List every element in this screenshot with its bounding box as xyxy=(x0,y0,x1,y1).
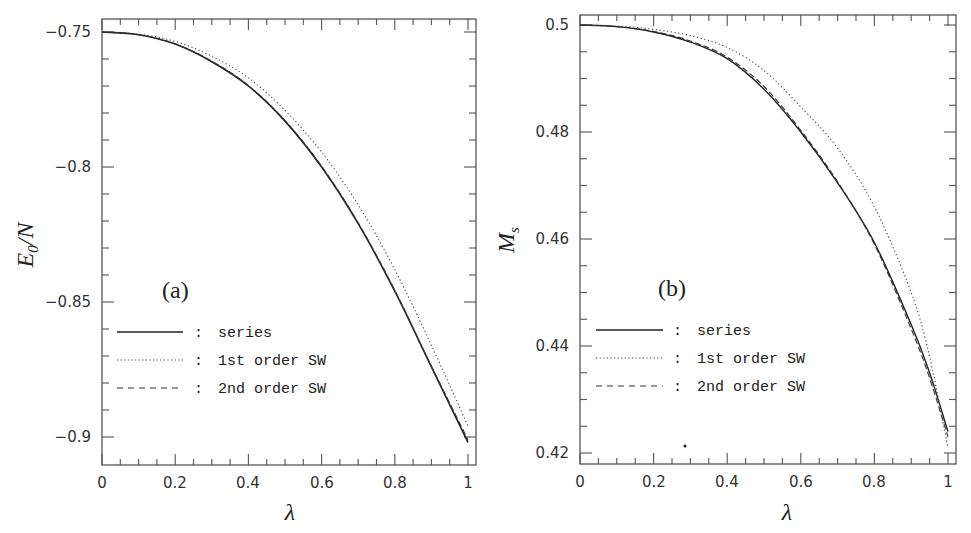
xtick-label: 1 xyxy=(943,473,953,491)
xtick-label: 0.4 xyxy=(715,473,739,491)
legend-sep: : xyxy=(673,351,682,368)
xtick-label: 0.8 xyxy=(383,474,407,492)
legend-label: 2nd order SW xyxy=(218,381,326,398)
y-axis-title: Ms xyxy=(493,227,522,254)
xtick-label: 0.6 xyxy=(310,474,334,492)
legend-label: 1st order SW xyxy=(697,351,805,368)
legend-b: : series : 1st order SW : 2nd order SW xyxy=(596,323,805,396)
figure: −0.75 −0.8 −0.85 −0.9 0 0.2 0.4 0.6 0.8 … xyxy=(0,0,971,533)
plot-frame-a xyxy=(102,19,476,465)
xtick-label: 0 xyxy=(97,474,107,492)
legend-sep: : xyxy=(194,353,203,370)
legend-sep: : xyxy=(673,379,682,396)
legend-sep: : xyxy=(194,325,203,342)
legend-sep: : xyxy=(194,381,203,398)
legend-label: 1st order SW xyxy=(218,353,326,370)
xtick-label: 0 xyxy=(575,473,585,491)
ytick-label: 0.46 xyxy=(536,230,569,248)
ytick-label: −0.9 xyxy=(55,428,91,446)
xtick-label: 0.8 xyxy=(862,473,886,491)
curve-2nd-order-sw xyxy=(580,25,948,437)
ytick-label: 0.44 xyxy=(536,337,569,355)
panel-label-a: (a) xyxy=(162,277,189,303)
artifact-dot xyxy=(684,445,687,448)
legend-sep: : xyxy=(673,323,682,340)
ytick-label: −0.75 xyxy=(45,23,91,41)
legend-label: 2nd order SW xyxy=(697,379,805,396)
xtick-label: 0.2 xyxy=(163,474,187,492)
ytick-label: 0.42 xyxy=(536,444,569,462)
legend-label: series xyxy=(218,325,272,342)
xtick-label: 0.4 xyxy=(236,474,260,492)
ticks-b xyxy=(580,15,956,464)
chart-a: −0.75 −0.8 −0.85 −0.9 0 0.2 0.4 0.6 0.8 … xyxy=(12,19,476,525)
ytick-label: 0.5 xyxy=(545,16,569,34)
xtick-label: 0.2 xyxy=(642,473,666,491)
plot-frame-b xyxy=(580,15,956,464)
x-axis-title: λ xyxy=(781,499,792,525)
ytick-label: −0.85 xyxy=(45,293,91,311)
legend-label: series xyxy=(697,323,751,340)
curve-2nd-order-sw xyxy=(102,32,468,440)
ytick-label: 0.48 xyxy=(536,123,569,141)
y-axis-title: E0/N xyxy=(12,221,41,269)
legend-a: : series : 1st order SW : 2nd order SW xyxy=(117,325,326,398)
ticks-a xyxy=(102,19,476,465)
ytick-label: −0.8 xyxy=(55,158,91,176)
panel-label-b: (b) xyxy=(658,275,686,301)
chart-b: 0.5 0.48 0.46 0.44 0.42 0 0.2 0.4 0.6 0.… xyxy=(493,15,956,525)
xtick-label: 0.6 xyxy=(789,473,813,491)
xtick-label: 1 xyxy=(463,474,473,492)
x-axis-title: λ xyxy=(284,499,295,525)
